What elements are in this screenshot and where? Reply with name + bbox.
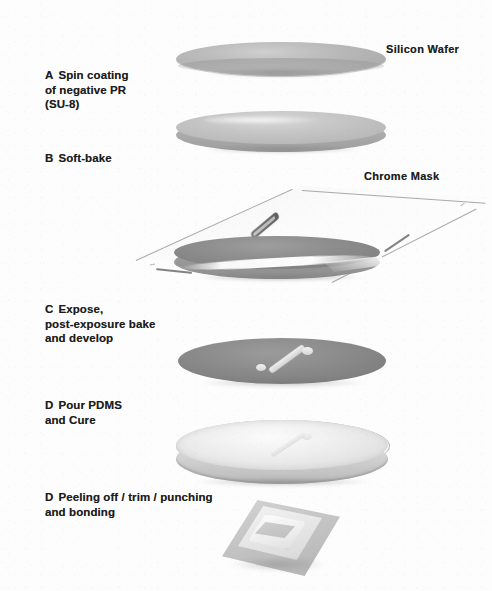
su8-channel-inlet — [256, 364, 266, 371]
silicon-wafer-artwork — [176, 38, 388, 82]
step-text-a: Spin coating of negative PR (SU-8) — [45, 69, 129, 110]
su8-channel-outlet — [302, 347, 313, 355]
pdms-disc-artwork — [176, 420, 390, 490]
step-text-d-peel: Peeling off / trim / punching and bondin… — [45, 491, 213, 518]
exposed-wafer-artwork — [174, 234, 384, 284]
step-label-b: BSoft-bake — [45, 151, 112, 166]
photoresist-wafer-shadow — [202, 146, 362, 154]
step-label-d-peel: DPeeling off / trim / punching and bondi… — [45, 490, 213, 519]
silicon-wafer-shadow — [206, 69, 356, 78]
pdms-disc-shadow — [194, 478, 372, 487]
step-text-d-pour: Pour PDMS and Cure — [45, 399, 122, 426]
step-text-b: Soft-bake — [58, 152, 111, 164]
step-label-d-pour: DPour PDMS and Cure — [45, 398, 122, 427]
pdms-channel-port — [302, 433, 312, 440]
step-label-c: CExpose, post-exposure bake and develop — [45, 302, 155, 346]
pdms-chip-artwork — [222, 500, 346, 580]
photoresist-wafer-artwork — [176, 108, 388, 158]
developed-mold-shadow — [198, 379, 368, 388]
exposure-stage-artwork — [126, 186, 492, 298]
step-letter-c: C — [45, 303, 53, 315]
step-letter-d-peel: D — [45, 491, 53, 503]
developed-mold-artwork — [178, 338, 388, 390]
step-letter-d-pour: D — [45, 399, 53, 411]
step-label-a: ASpin coating of negative PR (SU-8) — [45, 68, 129, 112]
step-letter-b: B — [45, 152, 53, 164]
chrome-mask-left-tick — [150, 264, 155, 266]
callout-chrome-mask: Chrome Mask — [364, 170, 439, 183]
photoresist-wafer-highlight — [204, 115, 324, 125]
pdms-chip-shadow — [230, 558, 326, 572]
callout-silicon-wafer: Silicon Wafer — [386, 43, 459, 56]
fabrication-process-figure: Silicon Wafer ASpin coating of negative … — [0, 0, 492, 591]
exposed-wafer-shadow — [194, 274, 364, 282]
step-letter-a: A — [45, 69, 53, 81]
step-text-c: Expose, post-exposure bake and develop — [45, 303, 155, 344]
